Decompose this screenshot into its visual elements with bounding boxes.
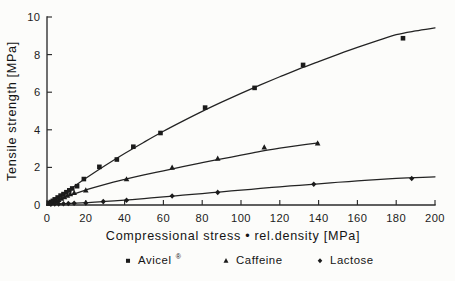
y-axis-tick-label: 10 bbox=[27, 11, 40, 23]
axis-titles-group: Compressional stress • rel.density [MPa]… bbox=[5, 41, 360, 243]
data-point-diamond bbox=[101, 199, 106, 205]
x-axis-tick-label: 40 bbox=[118, 212, 131, 224]
series-avicel bbox=[47, 28, 435, 206]
data-point-square bbox=[252, 86, 257, 91]
data-point-triangle bbox=[215, 155, 221, 160]
x-axis-tick-label: 60 bbox=[157, 212, 170, 224]
data-point-diamond bbox=[215, 190, 220, 196]
x-axis-tick-label: 80 bbox=[196, 212, 209, 224]
data-point-square bbox=[158, 131, 163, 136]
data-point-square bbox=[301, 63, 306, 68]
legend-superscript-registered-icon: ® bbox=[176, 253, 182, 260]
data-point-diamond bbox=[311, 182, 316, 188]
x-axis-tick-label: 100 bbox=[231, 212, 251, 224]
x-axis-tick-label: 20 bbox=[79, 212, 92, 224]
legend-marker-triangle bbox=[224, 258, 229, 263]
legend-label-lactose: Lactose bbox=[330, 254, 374, 266]
series-curve bbox=[47, 28, 435, 205]
tensile-strength-chart: 0204060801001201401601802000246810 Compr… bbox=[0, 0, 455, 281]
y-axis-tick-label: 2 bbox=[34, 161, 41, 173]
x-axis-tick-label: 120 bbox=[270, 212, 290, 224]
legend-group: Avicel®CaffeineLactose bbox=[126, 253, 374, 266]
data-point-square bbox=[82, 177, 87, 182]
ticks-group bbox=[47, 17, 435, 205]
y-axis-tick-label: 8 bbox=[34, 49, 41, 61]
data-point-square bbox=[401, 36, 406, 41]
axes-group bbox=[47, 17, 435, 205]
legend-label-caffeine: Caffeine bbox=[236, 254, 283, 266]
x-axis-title: Compressional stress • rel.density [MPa] bbox=[106, 229, 360, 243]
x-axis-tick-label: 140 bbox=[309, 212, 329, 224]
figure-container: 0204060801001201401601802000246810 Compr… bbox=[0, 0, 455, 281]
legend-marker-diamond bbox=[318, 258, 323, 263]
data-point-square bbox=[131, 144, 136, 149]
data-point-square bbox=[203, 105, 208, 110]
x-axis-tick-label: 180 bbox=[386, 212, 406, 224]
data-point-diamond bbox=[170, 193, 175, 199]
y-axis-tick-label: 4 bbox=[34, 124, 41, 136]
tick-labels-group: 0204060801001201401601802000246810 bbox=[27, 11, 445, 224]
data-point-triangle bbox=[261, 144, 267, 149]
data-point-diamond bbox=[409, 176, 414, 182]
data-point-square bbox=[115, 157, 120, 162]
series-caffeine bbox=[47, 140, 320, 205]
data-point-triangle bbox=[169, 164, 175, 169]
y-axis-tick-label: 0 bbox=[34, 199, 41, 211]
data-point-square bbox=[75, 184, 80, 189]
series-group bbox=[47, 28, 435, 207]
x-axis-tick-label: 160 bbox=[347, 212, 367, 224]
y-axis-title: Tensile strength [MPa] bbox=[5, 41, 19, 181]
data-point-square bbox=[97, 165, 102, 170]
y-axis-tick-label: 6 bbox=[34, 86, 41, 98]
x-axis-tick-label: 200 bbox=[425, 212, 445, 224]
data-point-square bbox=[70, 186, 75, 191]
x-axis-tick-label: 0 bbox=[44, 212, 51, 224]
legend-label-avicel: Avicel bbox=[138, 254, 171, 266]
legend-marker-square bbox=[126, 259, 130, 263]
